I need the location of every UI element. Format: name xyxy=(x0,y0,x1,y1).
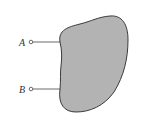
network-diagram: A B xyxy=(0,0,149,120)
diagram-canvas: A B xyxy=(0,0,149,120)
network-blob xyxy=(60,16,128,112)
terminal-b-label: B xyxy=(19,84,25,95)
terminal-a[interactable]: A xyxy=(18,37,60,48)
terminal-a-label: A xyxy=(18,37,26,48)
terminal-b-node-icon[interactable] xyxy=(29,87,33,91)
terminal-b[interactable]: B xyxy=(19,84,60,95)
terminal-a-node-icon[interactable] xyxy=(29,40,33,44)
